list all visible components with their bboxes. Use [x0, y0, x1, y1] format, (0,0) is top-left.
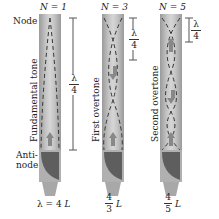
- formula-n5-var: L: [175, 199, 181, 209]
- side-label-fundamental: Fundamental tone: [29, 58, 39, 142]
- formula-n3-frac: 43: [105, 193, 113, 214]
- side-label-second-overtone: Second overtone: [150, 65, 160, 142]
- side-label-first-overtone: First overtone: [91, 77, 101, 142]
- label-n5: N = 5: [159, 2, 186, 12]
- node-label: Node: [13, 16, 37, 26]
- label-n1: N = 1: [40, 2, 67, 12]
- formula-n5-frac: 45: [164, 193, 172, 214]
- label-n3: N = 3: [101, 2, 128, 12]
- formula-n1: λ = 4 L: [37, 199, 71, 209]
- fraction-n5: λ4: [191, 20, 201, 41]
- antinode-label-1: Anti-: [16, 150, 38, 160]
- antinode-label-2: node: [16, 160, 38, 170]
- fraction-n3: λ4: [129, 29, 139, 50]
- formula-n3-var: L: [116, 199, 122, 209]
- fraction-n1: λ4: [69, 74, 79, 95]
